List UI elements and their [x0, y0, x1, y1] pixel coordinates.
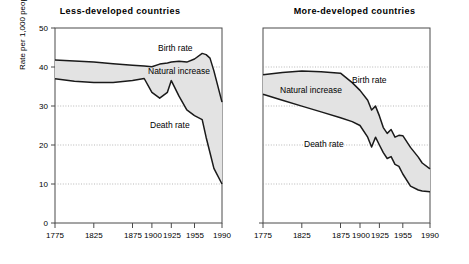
xtick-r-1875: 1875	[332, 231, 350, 240]
left-death-rate-label: Death rate	[150, 120, 190, 130]
xtick-1875: 1875	[124, 231, 142, 240]
xtick-1925: 1925	[163, 231, 181, 240]
ytick-20: 20	[39, 141, 48, 150]
right-plot-group: 1775 1825 1875 1900 1925 1955 1990 Birth…	[254, 28, 439, 240]
right-birth-rate-label: Birth rate	[352, 75, 387, 85]
ytick-10: 10	[39, 180, 48, 189]
xtick-r-1775: 1775	[254, 231, 272, 240]
xtick-1955: 1955	[186, 231, 204, 240]
right-death-rate-label: Death rate	[304, 139, 344, 149]
xtick-1900: 1900	[144, 231, 162, 240]
left-y-axis: 0 10 20 30 40 50	[39, 24, 55, 228]
right-x-axis: 1775 1825 1875 1900 1925 1955 1990	[254, 223, 439, 240]
chart-canvas: 0 10 20 30 40 50 1775 1825 1875 1900	[0, 0, 469, 264]
ytick-50: 50	[39, 24, 48, 33]
ytick-30: 30	[39, 102, 48, 111]
right-natural-increase-label: Natural increase	[280, 85, 342, 95]
xtick-1990: 1990	[213, 231, 231, 240]
xtick-r-1990: 1990	[421, 231, 439, 240]
ytick-0: 0	[44, 219, 49, 228]
right-plot-frame	[263, 28, 430, 223]
ytick-40: 40	[39, 63, 48, 72]
xtick-r-1955: 1955	[394, 231, 412, 240]
left-plot-group: 0 10 20 30 40 50 1775 1825 1875 1900	[39, 24, 231, 240]
xtick-1775: 1775	[46, 231, 64, 240]
xtick-r-1925: 1925	[371, 231, 389, 240]
xtick-r-1825: 1825	[293, 231, 311, 240]
xtick-r-1900: 1900	[352, 231, 370, 240]
xtick-1825: 1825	[85, 231, 103, 240]
left-natural-increase-label: Natural increase	[148, 66, 210, 76]
left-birth-rate-label: Birth rate	[158, 43, 193, 53]
figure-root: Less-developed countries More-developed …	[0, 0, 469, 264]
left-x-axis: 1775 1825 1875 1900 1925 1955 1990	[46, 223, 231, 240]
